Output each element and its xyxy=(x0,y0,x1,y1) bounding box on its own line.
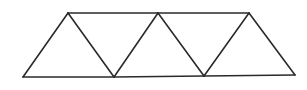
diagram-edges xyxy=(23,13,295,77)
edge-CD xyxy=(204,75,295,76)
edge-BF xyxy=(114,13,158,77)
triangle-strip-diagram xyxy=(0,0,307,90)
edge-AE xyxy=(23,13,68,77)
edge-EB xyxy=(68,13,114,77)
edge-BC xyxy=(114,76,204,77)
edge-CG xyxy=(204,13,249,76)
edge-GD xyxy=(249,13,295,75)
edge-FC xyxy=(158,13,204,76)
